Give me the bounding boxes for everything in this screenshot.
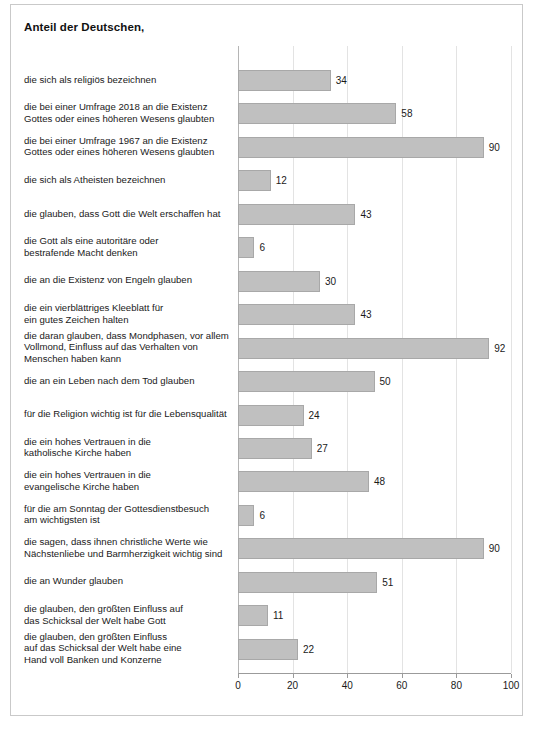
bar-value-label: 24 — [309, 410, 320, 421]
category-label: die an Wunder glauben — [24, 575, 232, 587]
category-label-line: Menschen haben kann — [24, 353, 232, 365]
category-label-line: die daran glauben, dass Mondphasen, vor … — [24, 330, 232, 342]
category-label-line: die an Wunder glauben — [24, 575, 232, 587]
bar-value-label: 51 — [382, 577, 393, 588]
category-label-line: ein gutes Zeichen halten — [24, 314, 232, 326]
category-label-line: die ein hohes Vertrauen in die — [24, 469, 232, 481]
tick-mark-60 — [402, 674, 403, 678]
category-label-line: die glauben, den größten Einfluss auf — [24, 603, 232, 615]
tick-mark-0 — [238, 674, 239, 678]
bar — [238, 639, 298, 660]
tick-label-20: 20 — [287, 680, 298, 691]
bar-value-label: 12 — [276, 175, 287, 186]
category-label-line: am wichtigsten ist — [24, 514, 232, 526]
category-label: die bei einer Umfrage 2018 an die Existe… — [24, 101, 232, 124]
category-label-line: Nächstenliebe und Barmherzigkeit wichtig… — [24, 548, 232, 560]
category-label-line: die bei einer Umfrage 1967 an die Existe… — [24, 135, 232, 147]
category-label: die daran glauben, dass Mondphasen, vor … — [24, 330, 232, 365]
x-axis-line — [238, 673, 511, 674]
category-label-line: die glauben, dass Gott die Welt erschaff… — [24, 208, 232, 220]
category-label: die sich als Atheisten bezeichnen — [24, 174, 232, 186]
category-label: für die Religion wichtig ist für die Leb… — [24, 408, 232, 420]
bar-value-label: 50 — [380, 376, 391, 387]
tick-label-60: 60 — [396, 680, 407, 691]
category-label-line: die glauben, den größten Einfluss — [24, 631, 232, 643]
bar-value-label: 30 — [325, 276, 336, 287]
bar-value-label: 90 — [489, 142, 500, 153]
tick-mark-80 — [456, 674, 457, 678]
bar — [238, 237, 254, 258]
category-label-line: die sich als religiös bezeichnen — [24, 74, 232, 86]
bar — [238, 204, 355, 225]
category-label: die sagen, dass ihnen christliche Werte … — [24, 536, 232, 559]
category-label: die ein hohes Vertrauen in diekatholisch… — [24, 436, 232, 459]
chart-footnote — [23, 731, 535, 742]
chart-figure: Anteil der Deutschen, 345890124363043925… — [10, 4, 523, 716]
plot-area: 3458901243630439250242748690511122 02040… — [238, 46, 511, 673]
category-label-line: für die am Sonntag der Gottesdienstbesuc… — [24, 503, 232, 515]
bar — [238, 137, 484, 158]
bar — [238, 605, 268, 626]
bar — [238, 271, 320, 292]
category-label: die sich als religiös bezeichnen — [24, 74, 232, 86]
bar-value-label: 58 — [401, 108, 412, 119]
category-label-line: katholische Kirche haben — [24, 447, 232, 459]
category-label: die ein hohes Vertrauen in dieevangelisc… — [24, 469, 232, 492]
bar-value-label: 27 — [317, 443, 328, 454]
category-label-line: die bei einer Umfrage 2018 an die Existe… — [24, 101, 232, 113]
category-label: die bei einer Umfrage 1967 an die Existe… — [24, 135, 232, 158]
category-label-line: die sich als Atheisten bezeichnen — [24, 174, 232, 186]
bar-value-label: 43 — [360, 309, 371, 320]
category-label: die Gott als eine autoritäre oderbestraf… — [24, 235, 232, 258]
bar-value-label: 22 — [303, 644, 314, 655]
category-label-line: die Gott als eine autoritäre oder — [24, 235, 232, 247]
category-label-line: die ein vierblättriges Kleeblatt für — [24, 302, 232, 314]
bar-value-label: 43 — [360, 209, 371, 220]
bar-value-label: 48 — [374, 476, 385, 487]
category-label: die an ein Leben nach dem Tod glauben — [24, 375, 232, 387]
bar-value-label: 90 — [489, 543, 500, 554]
category-label-line: Hand voll Banken und Konzerne — [24, 654, 232, 666]
bar-value-label: 6 — [259, 242, 265, 253]
category-label: die glauben, den größten Einflussauf das… — [24, 631, 232, 666]
category-label: die glauben, dass Gott die Welt erschaff… — [24, 208, 232, 220]
tick-label-80: 80 — [451, 680, 462, 691]
category-label-line: Gottes oder eines höheren Wesens glaubte… — [24, 113, 232, 125]
category-label-line: Gottes oder eines höheren Wesens glaubte… — [24, 146, 232, 158]
category-label-line: die an ein Leben nach dem Tod glauben — [24, 375, 232, 387]
bar-value-label: 11 — [273, 610, 283, 621]
tick-label-40: 40 — [342, 680, 353, 691]
bar — [238, 103, 396, 124]
bar-value-label: 6 — [259, 510, 265, 521]
category-label-line: Vollmond, Einfluss auf das Verhalten von — [24, 341, 232, 353]
bar — [238, 338, 489, 359]
tick-label-0: 0 — [235, 680, 241, 691]
category-label-line: die ein hohes Vertrauen in die — [24, 436, 232, 448]
bar — [238, 572, 377, 593]
tick-mark-20 — [293, 674, 294, 678]
category-label-line: das Schicksal der Welt habe Gott — [24, 615, 232, 627]
bar — [238, 438, 312, 459]
bar — [238, 538, 484, 559]
bar — [238, 405, 304, 426]
bar — [238, 371, 375, 392]
category-label: die ein vierblättriges Kleeblatt fürein … — [24, 302, 232, 325]
tick-mark-100 — [511, 674, 512, 678]
category-label-line: evangelische Kirche haben — [24, 481, 232, 493]
bar — [238, 471, 369, 492]
tick-label-100: 100 — [503, 680, 520, 691]
category-label-line: auf das Schicksal der Welt habe eine — [24, 642, 232, 654]
bar — [238, 70, 331, 91]
tick-mark-40 — [347, 674, 348, 678]
category-label-line: die an die Existenz von Engeln glauben — [24, 274, 232, 286]
chart-title: Anteil der Deutschen, — [24, 21, 144, 33]
bar-value-label: 34 — [336, 75, 347, 86]
category-label: die glauben, den größten Einfluss aufdas… — [24, 603, 232, 626]
bar — [238, 304, 355, 325]
category-label-line: die sagen, dass ihnen christliche Werte … — [24, 536, 232, 548]
bar-value-label: 92 — [494, 343, 505, 354]
bar — [238, 505, 254, 526]
bar — [238, 170, 271, 191]
category-label-line: für die Religion wichtig ist für die Leb… — [24, 408, 232, 420]
gridline-100 — [511, 46, 512, 673]
